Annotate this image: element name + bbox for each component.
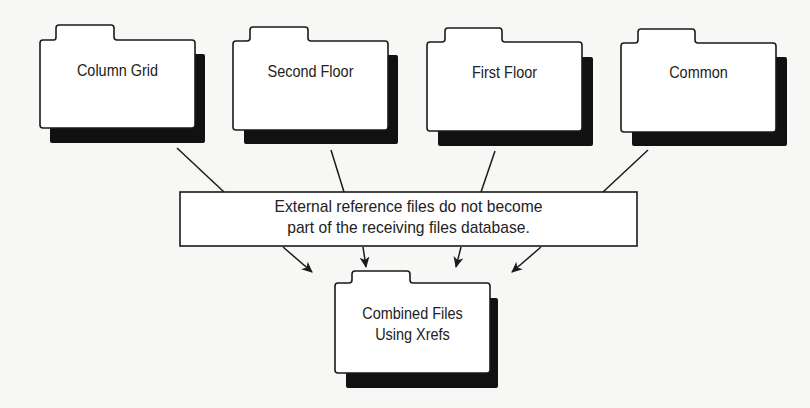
connector-lines xyxy=(177,148,648,192)
result-label-line-2: Using Xrefs xyxy=(347,324,479,345)
arrow-icon xyxy=(512,247,541,272)
arrow-icon xyxy=(456,247,461,267)
folder-column-grid xyxy=(40,25,205,143)
folder-common xyxy=(621,29,787,146)
folder-second-floor xyxy=(233,27,398,144)
result-label-line-1: Combined Files xyxy=(347,303,479,324)
result-folder-label: Combined Files Using Xrefs xyxy=(347,303,479,345)
folder-label: Column Grid xyxy=(52,60,184,81)
arrow-icon xyxy=(363,247,366,267)
arrows xyxy=(283,247,541,272)
folder-first-floor xyxy=(427,28,593,146)
folder-label: First Floor xyxy=(439,62,571,83)
callout-line-1: External reference files do not become xyxy=(198,196,618,217)
folder-label: Second Floor xyxy=(245,61,377,82)
callout-line-2: part of the receiving files database. xyxy=(198,217,618,238)
folder-label: Common xyxy=(633,62,765,83)
callout-text: External reference files do not become p… xyxy=(198,196,618,238)
arrow-icon xyxy=(283,247,312,272)
